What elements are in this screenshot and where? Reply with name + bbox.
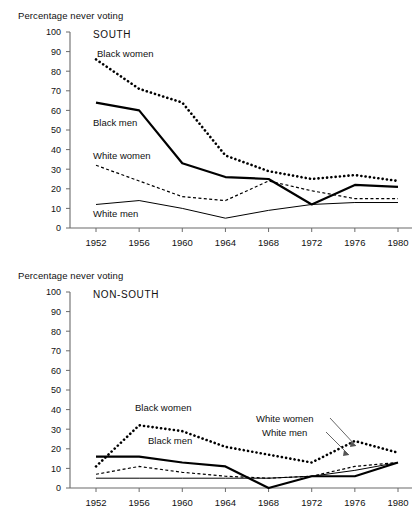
y-tick-label-south: 90 xyxy=(51,47,61,57)
plot-area-nonsouth: 0102030405060708090100 19521956196019641… xyxy=(0,260,417,520)
x-tick-label-nonsouth: 1964 xyxy=(215,497,236,508)
y-tick-label-nonsouth: 100 xyxy=(46,287,61,297)
y-tick-label-south: 70 xyxy=(51,86,61,96)
y-tick-group-nonsouth: 0102030405060708090100 xyxy=(46,287,70,493)
axes-nonsouth xyxy=(70,292,412,488)
series-label-black-men-nonsouth: Black men xyxy=(148,435,192,446)
y-tick-label-south: 0 xyxy=(56,223,61,233)
x-tick-label-south: 1968 xyxy=(258,237,279,248)
x-tick-label-south: 1980 xyxy=(387,237,408,248)
series-label-white-women-south: White women xyxy=(93,150,151,161)
y-tick-label-nonsouth: 90 xyxy=(51,307,61,317)
y-tick-label-nonsouth: 0 xyxy=(56,483,61,493)
y-tick-label-nonsouth: 70 xyxy=(51,346,61,356)
chart-svg-nonsouth: 0102030405060708090100 19521956196019641… xyxy=(0,260,417,520)
series-line-white-men-south xyxy=(96,201,398,219)
series-group-nonsouth xyxy=(96,425,398,488)
series-line-white-women-south xyxy=(96,165,398,200)
series-group-south xyxy=(96,59,398,218)
y-tick-label-nonsouth: 60 xyxy=(51,366,61,376)
x-tick-label-south: 1956 xyxy=(129,237,150,248)
y-tick-group-south: 0102030405060708090100 xyxy=(46,27,70,233)
series-label-white-men-south: White men xyxy=(93,208,138,219)
x-tick-label-nonsouth: 1956 xyxy=(129,497,150,508)
y-tick-label-south: 20 xyxy=(51,184,61,194)
y-tick-label-nonsouth: 10 xyxy=(51,464,61,474)
chart-svg-south: 0102030405060708090100 19521956196019641… xyxy=(0,0,417,260)
x-tick-label-south: 1952 xyxy=(85,237,106,248)
y-tick-label-south: 50 xyxy=(51,125,61,135)
x-tick-label-nonsouth: 1972 xyxy=(301,497,322,508)
series-label-white-women-nonsouth: White women xyxy=(256,413,314,424)
x-tick-label-nonsouth: 1968 xyxy=(258,497,279,508)
series-label-white-men-nonsouth: White men xyxy=(262,427,307,438)
x-tick-label-south: 1976 xyxy=(344,237,365,248)
y-tick-label-nonsouth: 30 xyxy=(51,425,61,435)
region-label-south: SOUTH xyxy=(93,29,131,40)
y-tick-label-nonsouth: 80 xyxy=(51,327,61,337)
y-tick-label-nonsouth: 50 xyxy=(51,385,61,395)
chart-panel-south: Percentage never voting 0102030405060708… xyxy=(0,0,417,260)
series-line-black-women-south xyxy=(96,59,398,181)
series-label-black-men-south: Black men xyxy=(93,117,137,128)
region-label-nonsouth: NON-SOUTH xyxy=(93,289,159,300)
y-tick-label-south: 40 xyxy=(51,145,61,155)
series-label-black-women-nonsouth: Black women xyxy=(135,402,192,413)
y-tick-label-south: 60 xyxy=(51,106,61,116)
x-tick-label-nonsouth: 1952 xyxy=(85,497,106,508)
plot-area-south: 0102030405060708090100 19521956196019641… xyxy=(0,0,417,260)
leader-lines-nonsouth xyxy=(326,418,356,456)
y-tick-label-south: 30 xyxy=(51,165,61,175)
y-tick-label-nonsouth: 40 xyxy=(51,405,61,415)
x-tick-group-nonsouth: 19521956196019641968197219761980 xyxy=(85,488,408,508)
x-tick-label-south: 1964 xyxy=(215,237,236,248)
x-tick-label-south: 1960 xyxy=(172,237,193,248)
y-tick-label-south: 100 xyxy=(46,27,61,37)
y-tick-label-south: 80 xyxy=(51,67,61,77)
y-tick-label-south: 10 xyxy=(51,204,61,214)
x-tick-group-south: 19521956196019641968197219761980 xyxy=(85,228,408,248)
series-label-black-women-south: Black women xyxy=(97,48,154,59)
y-tick-label-nonsouth: 20 xyxy=(51,444,61,454)
x-tick-label-south: 1972 xyxy=(301,237,322,248)
chart-panel-nonsouth: Percentage never voting 0102030405060708… xyxy=(0,260,417,520)
x-tick-label-nonsouth: 1960 xyxy=(172,497,193,508)
x-tick-label-nonsouth: 1980 xyxy=(387,497,408,508)
series-line-black-men-nonsouth xyxy=(96,457,398,488)
x-tick-label-nonsouth: 1976 xyxy=(344,497,365,508)
